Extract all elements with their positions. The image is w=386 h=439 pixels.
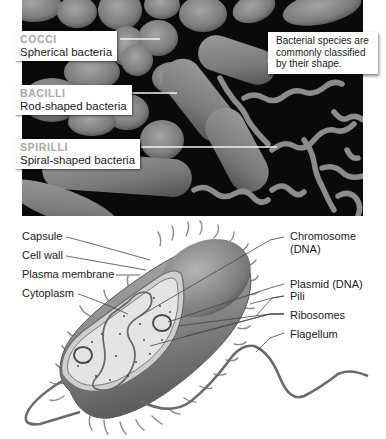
cocci-description: Spherical bacteria	[20, 46, 112, 59]
cocci-heading: COCCI	[20, 33, 112, 46]
label-ribosomes: Ribosomes	[290, 309, 345, 322]
label-flagellum: Flagellum	[290, 328, 338, 341]
spirilli-description: Spiral-shaped bacteria	[20, 154, 135, 167]
spirilli-heading: SPIRILLI	[20, 141, 135, 154]
cocci-label: COCCI Spherical bacteria	[15, 31, 117, 61]
label-capsule: Capsule	[22, 230, 62, 243]
bacilli-label: BACILLI Rod-shaped bacteria	[15, 85, 132, 115]
bacilli-description: Rod-shaped bacteria	[20, 100, 127, 113]
spirilli-label: SPIRILLI Spiral-shaped bacteria	[15, 139, 140, 169]
label-plasmid: Plasmid (DNA)	[290, 278, 363, 291]
bacilli-heading: BACILLI	[20, 87, 127, 100]
label-plasma-membrane: Plasma membrane	[22, 268, 114, 281]
label-cell-wall: Cell wall	[22, 249, 63, 262]
label-chromosome: Chromosome (DNA)	[290, 230, 352, 255]
label-cytoplasm: Cytoplasm	[22, 287, 74, 300]
classification-callout: Bacterial species are commonly classifie…	[268, 32, 378, 74]
label-pili: Pili	[290, 290, 305, 303]
